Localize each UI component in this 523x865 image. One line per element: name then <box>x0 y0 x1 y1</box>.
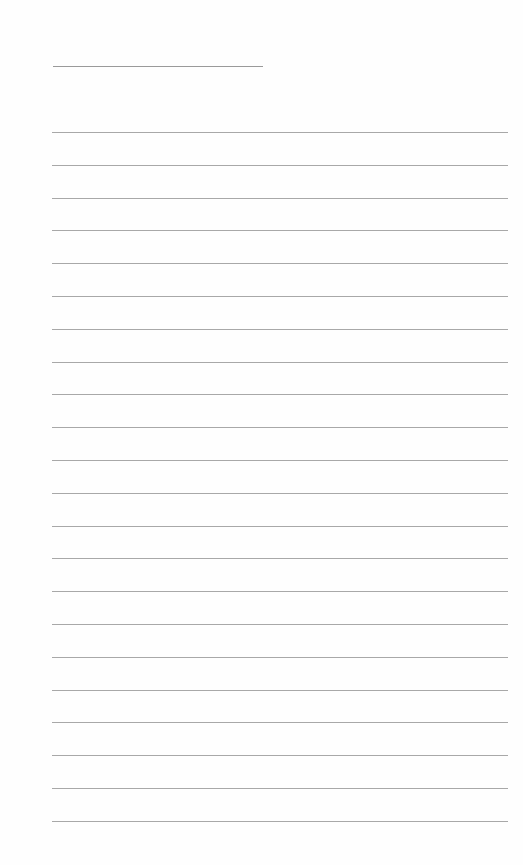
ruled-line <box>52 296 508 297</box>
title-line <box>53 66 263 67</box>
ruled-line <box>52 722 508 723</box>
lined-paper-page <box>0 0 523 865</box>
ruled-line <box>52 558 508 559</box>
ruled-line <box>52 263 508 264</box>
ruled-line <box>52 394 508 395</box>
ruled-line <box>52 690 508 691</box>
ruled-line <box>52 362 508 363</box>
ruled-line <box>52 132 508 133</box>
ruled-line <box>52 657 508 658</box>
ruled-line <box>52 788 508 789</box>
ruled-line <box>52 460 508 461</box>
ruled-line <box>52 493 508 494</box>
ruled-line <box>52 526 508 527</box>
ruled-line <box>52 198 508 199</box>
ruled-line <box>52 591 508 592</box>
ruled-line <box>52 427 508 428</box>
ruled-line <box>52 624 508 625</box>
ruled-line <box>52 821 508 822</box>
ruled-line <box>52 329 508 330</box>
ruled-line <box>52 165 508 166</box>
ruled-line <box>52 230 508 231</box>
ruled-line <box>52 755 508 756</box>
